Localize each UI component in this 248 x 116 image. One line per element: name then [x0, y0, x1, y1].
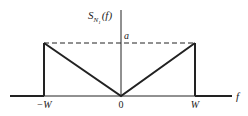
v-shaped-spectrum	[44, 43, 195, 96]
tick-label-zero: 0	[119, 99, 124, 110]
spectrum-diagram: SN1(f) a −W 0 W f	[0, 0, 248, 116]
tick-label-w: W	[191, 99, 201, 110]
y-axis-label: SN1(f)	[88, 9, 112, 25]
x-axis-label: f	[236, 90, 241, 102]
tick-label-neg-w: −W	[36, 99, 53, 110]
level-label-a: a	[124, 30, 129, 41]
